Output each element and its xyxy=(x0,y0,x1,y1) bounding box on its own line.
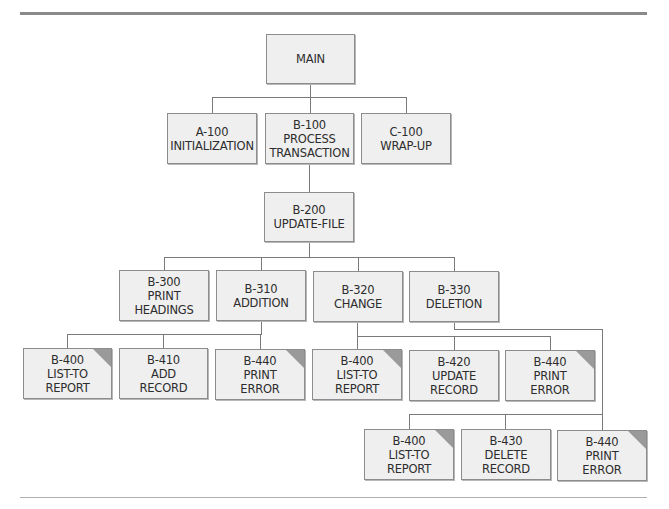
module-label: B-440 xyxy=(586,435,619,449)
module-label: B-310 xyxy=(245,282,278,296)
module-box-b400b: B-400LIST-TOREPORT xyxy=(312,349,402,400)
shaded-corner-icon xyxy=(435,430,453,448)
module-label: B-100 xyxy=(293,118,326,132)
module-box-b300: B-300PRINTHEADINGS xyxy=(119,270,209,321)
module-label: B-430 xyxy=(490,434,523,448)
module-name-line: LIST-TO xyxy=(389,448,430,462)
module-name-line: ERROR xyxy=(582,463,621,477)
module-box-b320: B-320CHANGE xyxy=(313,271,403,322)
module-label: B-300 xyxy=(148,275,181,289)
module-name-line: RECORD xyxy=(482,462,530,476)
module-name-line: ADDITION xyxy=(233,296,288,310)
module-label: B-400 xyxy=(341,354,374,368)
module-name-line: PROCESS xyxy=(283,132,335,146)
module-name-line: WRAP-UP xyxy=(380,139,432,153)
module-name-line: UPDATE-FILE xyxy=(274,217,345,231)
module-name-line: RECORD xyxy=(430,383,478,397)
module-box-b440a: B-440PRINTERROR xyxy=(215,349,305,400)
module-name-line: HEADINGS xyxy=(134,303,193,317)
module-label: B-330 xyxy=(438,283,471,297)
module-label: B-410 xyxy=(147,353,180,367)
module-name-line: PRINT xyxy=(148,289,181,303)
module-name-line: INITIALIZATION xyxy=(170,139,254,153)
module-box-a100: A-100INITIALIZATION xyxy=(167,113,257,164)
module-box-b100: B-100PROCESSTRANSACTION xyxy=(265,113,354,164)
module-box-b330: B-330DELETION xyxy=(409,271,499,322)
module-box-b400a: B-400LIST-TOREPORT xyxy=(23,348,112,399)
module-name-line: UPDATE xyxy=(432,369,476,383)
module-name-line: REPORT xyxy=(45,381,89,395)
module-name-line: DELETION xyxy=(426,297,482,311)
module-name-line: ERROR xyxy=(240,382,279,396)
module-label: B-320 xyxy=(342,283,375,297)
module-box-b410: B-410ADDRECORD xyxy=(119,348,208,399)
module-name-line: ERROR xyxy=(530,383,569,397)
bottom-rule xyxy=(20,497,647,498)
module-name-line: REPORT xyxy=(335,382,379,396)
module-box-b400c: B-400LIST-TOREPORT xyxy=(364,429,454,480)
module-label: B-400 xyxy=(393,434,426,448)
shaded-corner-icon xyxy=(628,431,646,449)
module-name-line: RECORD xyxy=(140,381,188,395)
module-box-b430: B-430DELETERECORD xyxy=(461,429,551,480)
module-name-line: ADD xyxy=(151,367,176,381)
module-label: A-100 xyxy=(196,125,229,139)
module-box-b440b: B-440PRINTERROR xyxy=(505,350,595,401)
module-box-c100: C-100WRAP-UP xyxy=(361,113,451,164)
module-name-line: CHANGE xyxy=(334,297,382,311)
module-name-line: PRINT xyxy=(534,369,567,383)
shaded-corner-icon xyxy=(576,351,594,369)
module-box-b420: B-420UPDATERECORD xyxy=(409,350,499,401)
module-label: B-440 xyxy=(534,355,567,369)
module-box-main: MAIN xyxy=(266,34,355,84)
module-name-line: PRINT xyxy=(244,368,277,382)
module-name-line: PRINT xyxy=(586,449,619,463)
module-box-b310: B-310ADDITION xyxy=(216,270,306,321)
module-label: B-400 xyxy=(51,353,84,367)
module-label: C-100 xyxy=(389,125,422,139)
module-box-b200: B-200UPDATE-FILE xyxy=(264,192,354,242)
shaded-corner-icon xyxy=(286,350,304,368)
shaded-corner-icon xyxy=(383,350,401,368)
module-label: B-420 xyxy=(438,355,471,369)
module-name-line: TRANSACTION xyxy=(269,146,349,160)
module-label: B-440 xyxy=(244,354,277,368)
shaded-corner-icon xyxy=(93,349,111,367)
module-name-line: REPORT xyxy=(387,462,431,476)
module-name-line: DELETE xyxy=(485,448,528,462)
module-box-b440c: B-440PRINTERROR xyxy=(557,430,647,481)
module-label: B-200 xyxy=(293,203,326,217)
module-label: MAIN xyxy=(296,52,325,66)
module-name-line: LIST-TO xyxy=(47,367,88,381)
module-name-line: LIST-TO xyxy=(337,368,378,382)
